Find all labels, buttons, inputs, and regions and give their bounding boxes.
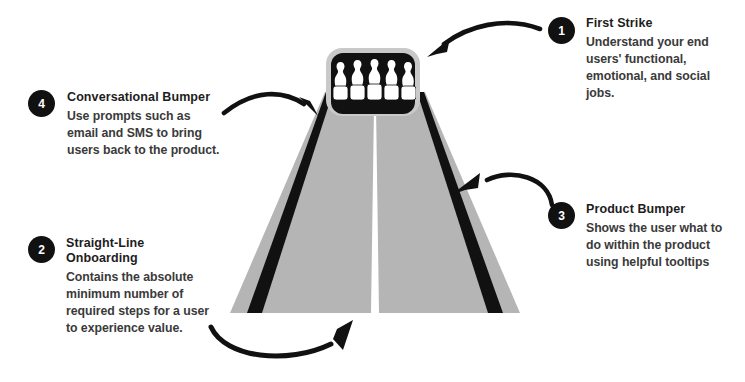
callout-title-1: First Strike	[586, 16, 710, 31]
callout-title-4: Conversational Bumper	[67, 90, 219, 105]
arrow-to-pins	[427, 23, 540, 57]
callout-title-2: Straight-Line Onboarding	[66, 236, 209, 266]
callout-body-4: Use prompts such as email and SMS to bri…	[67, 108, 219, 159]
callout-3[interactable]: 3 Product Bumper Shows the user what to …	[548, 202, 738, 271]
callout-2[interactable]: 2 Straight-Line Onboarding Contains the …	[28, 236, 243, 337]
callout-badge-1: 1	[548, 17, 575, 44]
callout-badge-2: 2	[28, 236, 55, 263]
callout-body-3: Shows the user what to do within the pro…	[586, 220, 722, 271]
callout-text-2: Straight-Line Onboarding Contains the ab…	[66, 236, 209, 337]
callout-text-1: First Strike Understand your end users' …	[586, 16, 710, 102]
callout-4[interactable]: 4 Conversational Bumper Use prompts such…	[28, 90, 243, 159]
diagram-canvas: 1 First Strike Understand your end users…	[0, 0, 745, 382]
callout-body-2: Contains the absolute minimum number of …	[66, 269, 209, 337]
callout-text-4: Conversational Bumper Use prompts such a…	[67, 90, 219, 159]
callout-badge-3: 3	[548, 202, 575, 229]
callout-1[interactable]: 1 First Strike Understand your end users…	[548, 16, 738, 102]
callout-body-1: Understand your end users' functional, e…	[586, 34, 710, 102]
callout-badge-4: 4	[28, 90, 55, 117]
callout-title-3: Product Bumper	[586, 202, 722, 217]
callout-text-3: Product Bumper Shows the user what to do…	[586, 202, 722, 271]
